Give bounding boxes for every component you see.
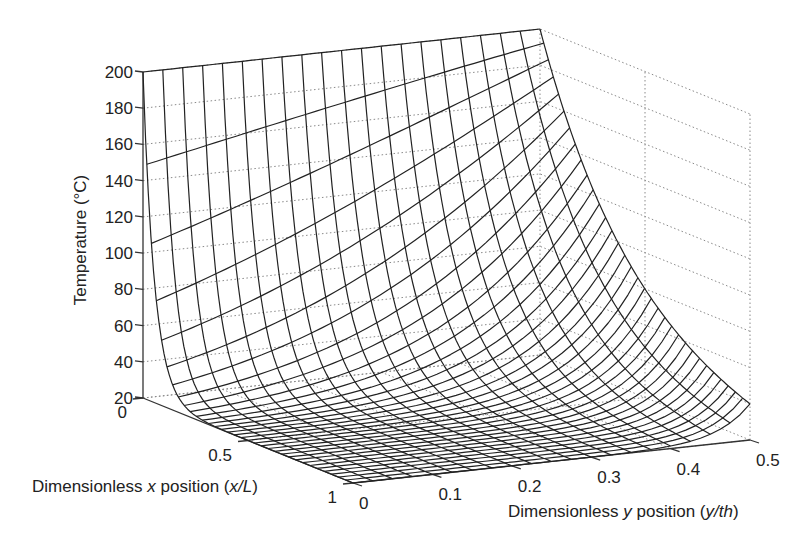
z-tick-label: 140 <box>105 172 133 191</box>
x-tick-label: 1 <box>328 488 337 507</box>
y-tick-label: 0.5 <box>756 451 780 470</box>
z-tick-label: 120 <box>105 208 133 227</box>
z-tick-label: 60 <box>114 317 133 336</box>
y-axis-label: Dimensionless y position (y/th) <box>508 502 739 521</box>
y-tick-label: 0 <box>359 494 368 513</box>
y-tick-label: 0.2 <box>518 477 542 496</box>
x-tick-label: 0 <box>118 403 127 422</box>
z-tick-label: 160 <box>105 135 133 154</box>
z-tick-label: 40 <box>114 353 133 372</box>
y-tick-label: 0.3 <box>597 468 621 487</box>
back-grid <box>143 29 750 483</box>
z-tick-label: 200 <box>105 63 133 82</box>
y-tick-label: 0.1 <box>438 485 462 504</box>
x-axis-label: Dimensionless x position (x/L) <box>32 477 258 496</box>
z-tick-label: 180 <box>105 99 133 118</box>
y-tick-label: 0.4 <box>677 460 701 479</box>
z-tick-label: 80 <box>114 280 133 299</box>
x-tick-label: 0.5 <box>208 446 232 465</box>
z-tick-label: 100 <box>105 244 133 263</box>
z-axis-label: Temperature (°C) <box>71 175 90 306</box>
surface-plot: 2040608010012014016018020000.5100.10.20.… <box>0 0 809 557</box>
